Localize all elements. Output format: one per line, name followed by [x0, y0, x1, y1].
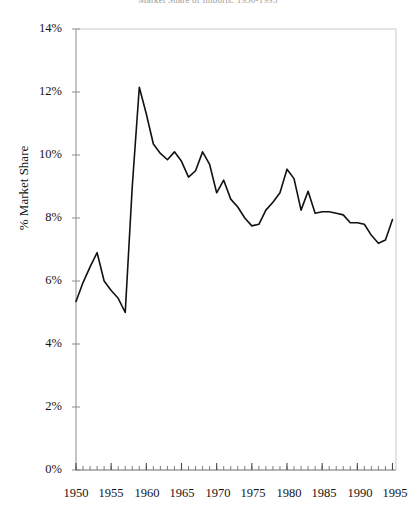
market-share-chart: Market Share of Imports, 1950-1995 % Mar… [0, 0, 416, 514]
x-major-ticks [76, 463, 392, 470]
market-share-line [76, 87, 392, 312]
plot-area [0, 0, 416, 514]
x-minor-ticks [76, 466, 392, 470]
